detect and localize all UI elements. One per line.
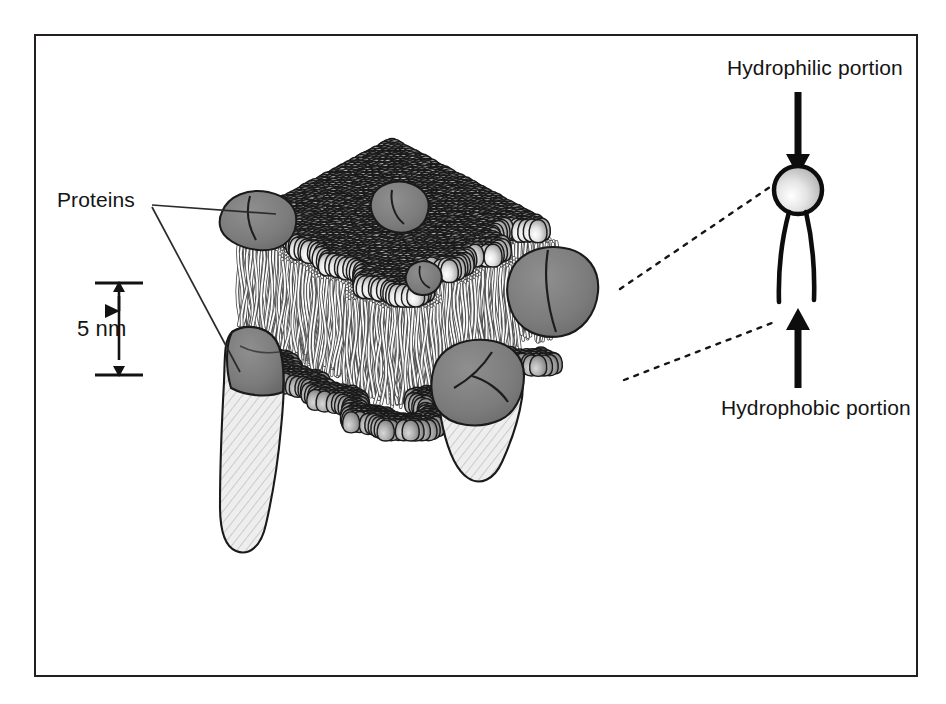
integral-protein-right xyxy=(507,247,598,337)
label-hydrophilic-portion: Hydrophilic portion xyxy=(727,56,903,80)
label-proteins: Proteins xyxy=(57,188,135,212)
phospholipid-tail-2 xyxy=(806,212,814,300)
integral-protein-left xyxy=(220,327,284,552)
lipid-head xyxy=(343,412,360,433)
figure-root: Hydrophilic portion Hydrophobic portion … xyxy=(0,0,946,704)
lipid-head xyxy=(377,420,394,441)
lipid-head xyxy=(402,420,419,441)
phospholipid-head xyxy=(774,166,822,214)
lipid-head xyxy=(484,244,502,267)
peripheral-protein-small xyxy=(406,261,442,295)
peripheral-protein-left xyxy=(220,191,297,250)
peripheral-protein-top xyxy=(371,182,429,233)
lipid-head xyxy=(530,355,547,376)
label-scale-5nm: 5 nm xyxy=(77,316,126,342)
dotted-connector-icon xyxy=(620,187,772,380)
lipid-head xyxy=(440,260,458,283)
lipid-head xyxy=(529,220,547,243)
integral-protein-center xyxy=(431,340,524,482)
single-phospholipid-inset xyxy=(774,92,822,388)
label-hydrophobic-portion: Hydrophobic portion xyxy=(721,396,911,420)
membrane-illustration xyxy=(0,0,946,704)
phospholipid-tail-1 xyxy=(779,212,789,302)
